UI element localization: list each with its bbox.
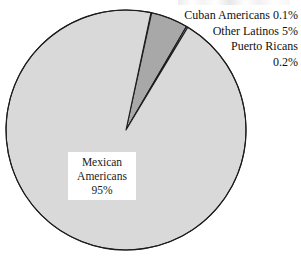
slice-label-line-3: 95% — [70, 183, 134, 197]
slice-label-mexican-americans: Mexican Americans 95% — [68, 152, 136, 200]
callout-puerto-ricans: Puerto Ricans — [138, 39, 298, 55]
pie-chart-figure: Mexican Americans 95% Cuban Americans 0.… — [0, 0, 301, 260]
callout-puerto-ricans-value: 0.2% — [138, 55, 298, 71]
callout-label-group: Cuban Americans 0.1% Other Latinos 5% Pu… — [138, 8, 298, 70]
slice-label-line-2: Americans — [70, 169, 134, 183]
callout-cuban-americans: Cuban Americans 0.1% — [138, 8, 298, 24]
slice-label-line-1: Mexican — [70, 155, 134, 169]
callout-other-latinos: Other Latinos 5% — [138, 24, 298, 40]
